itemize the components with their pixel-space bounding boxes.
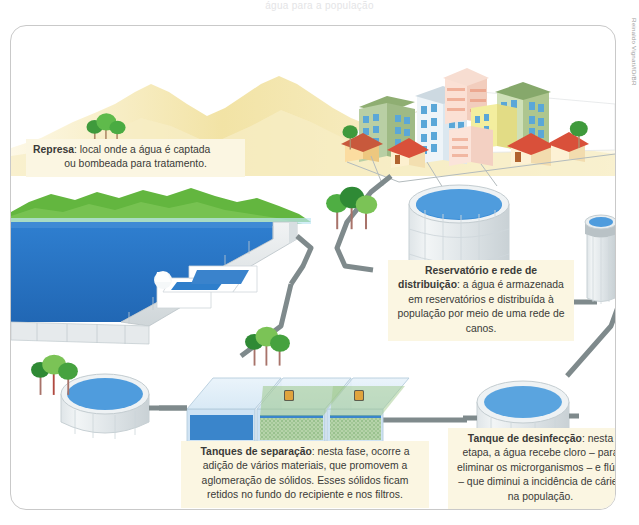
caption-desinfeccao-title: Tanque de desinfecção [468, 433, 582, 444]
figure-frame: Represa: local onde a água é captada ou … [10, 25, 616, 510]
caption-tanques-title: Tanques de separação [201, 446, 312, 457]
tree-cluster-mid-left [245, 327, 290, 366]
caption-represa-title: Represa [33, 144, 74, 155]
caption-tanque-desinfeccao: Tanque de desinfecção: nesta etapa, a ág… [448, 428, 616, 509]
caption-represa: Represa: local onde a água é captada ou … [26, 139, 245, 177]
hills [11, 188, 311, 224]
caption-tanques-separacao: Tanques de separação: nesta fase, ocorre… [181, 441, 429, 508]
round-tank-left [61, 374, 149, 439]
caption-represa-line1: local onde a água é captada [77, 144, 210, 155]
settling-tanks [187, 378, 409, 442]
standpipe-tank [585, 215, 615, 304]
image-credit: Reinaldo Vignati/ID/BR [631, 18, 638, 86]
caption-reservatorio: Reservatório e rede de distribuição: a á… [388, 260, 574, 341]
building-pale-pink [449, 126, 493, 166]
cropped-caption-sliver: água para a população [0, 0, 639, 12]
caption-represa-line2: ou bombeada para tratamento. [33, 157, 238, 171]
